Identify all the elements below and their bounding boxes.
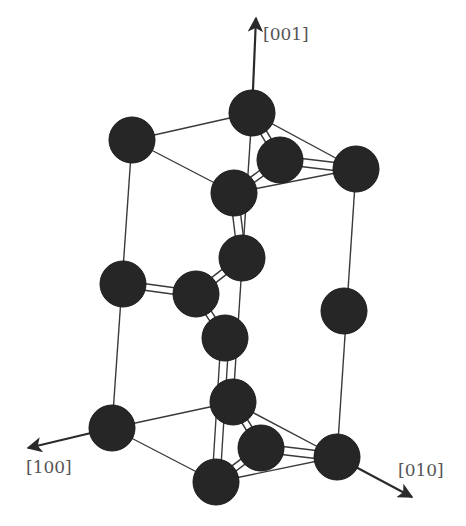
atom-A2 xyxy=(229,90,275,136)
atom-B5 xyxy=(321,288,367,334)
atoms xyxy=(89,90,379,505)
atom-A1 xyxy=(109,117,155,163)
atom-B1 xyxy=(100,261,146,307)
atom-C4 xyxy=(314,434,360,480)
atom-C2 xyxy=(210,379,256,425)
crystal-structure-diagram: [001] [100] [010] xyxy=(0,0,466,526)
atom-A3 xyxy=(257,137,303,183)
atom-C1 xyxy=(89,405,135,451)
atom-A5 xyxy=(211,170,257,216)
atom-B3 xyxy=(219,235,265,281)
atom-B4 xyxy=(202,315,248,361)
atom-B2 xyxy=(173,271,219,317)
axis-label-010: [010] xyxy=(398,460,444,480)
axis-label-001: [001] xyxy=(263,24,309,44)
atom-C5 xyxy=(193,459,239,505)
atom-C3 xyxy=(238,425,284,471)
axis-label-100: [100] xyxy=(26,457,72,477)
atom-A4 xyxy=(333,146,379,192)
